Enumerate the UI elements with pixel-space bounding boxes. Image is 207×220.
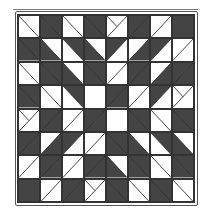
quilt-cell-r7-c4 — [106, 179, 128, 202]
quilt-cell-r6-c7 — [172, 155, 194, 178]
quilt-cell-r3-c3 — [84, 85, 106, 108]
quilt-grid — [17, 14, 195, 203]
quilt-cell-r1-c2 — [62, 38, 84, 61]
quilt-cell-r4-c1 — [40, 109, 62, 132]
quilt-cell-r7-c5 — [128, 179, 150, 202]
quilt-cell-r7-c6 — [150, 179, 172, 202]
quilt-cell-r0-c5 — [128, 15, 150, 38]
quilt-cell-r7-c2 — [62, 179, 84, 202]
quilt-cell-r4-c3 — [84, 109, 106, 132]
quilt-cell-r1-c1 — [40, 38, 62, 61]
quilt-cell-r0-c7 — [172, 15, 194, 38]
quilt-cell-r6-c6 — [150, 155, 172, 178]
quilt-cell-r5-c0 — [18, 132, 40, 155]
quilt-cell-r7-c1 — [40, 179, 62, 202]
quilt-cell-r5-c1 — [40, 132, 62, 155]
quilt-cell-r4-c0 — [18, 109, 40, 132]
quilt-cell-r1-c5 — [128, 38, 150, 61]
quilt-cell-r5-c5 — [128, 132, 150, 155]
quilt-cell-r5-c7 — [172, 132, 194, 155]
quilt-cell-r0-c2 — [62, 15, 84, 38]
quilt-cell-r2-c1 — [40, 62, 62, 85]
quilt-cell-r3-c1 — [40, 85, 62, 108]
quilt-cell-r4-c6 — [150, 109, 172, 132]
quilt-cell-r4-c2 — [62, 109, 84, 132]
quilt-cell-r7-c3 — [84, 179, 106, 202]
quilt-cell-r2-c5 — [128, 62, 150, 85]
quilt-cell-r1-c3 — [84, 38, 106, 61]
quilt-cell-r5-c4 — [106, 132, 128, 155]
quilt-cell-r0-c3 — [84, 15, 106, 38]
quilt-cell-r7-c7 — [172, 179, 194, 202]
quilt-cell-r3-c0 — [18, 85, 40, 108]
quilt-cell-r6-c3 — [84, 155, 106, 178]
quilt-cell-r3-c5 — [128, 85, 150, 108]
quilt-cell-r3-c2 — [62, 85, 84, 108]
quilt-cell-r2-c3 — [84, 62, 106, 85]
quilt-cell-r5-c3 — [84, 132, 106, 155]
quilt-cell-r6-c4 — [106, 155, 128, 178]
quilt-cell-r1-c7 — [172, 38, 194, 61]
quilt-cell-r2-c6 — [150, 62, 172, 85]
quilt-cell-r5-c6 — [150, 132, 172, 155]
quilt-cell-r4-c7 — [172, 109, 194, 132]
quilt-cell-r4-c5 — [128, 109, 150, 132]
quilt-cell-r6-c2 — [62, 155, 84, 178]
quilt-cell-r3-c4 — [106, 85, 128, 108]
quilt-cell-r4-c4 — [106, 109, 128, 132]
quilt-cell-r3-c6 — [150, 85, 172, 108]
quilt-cell-r2-c7 — [172, 62, 194, 85]
quilt-cell-r1-c4 — [106, 38, 128, 61]
quilt-cell-r1-c0 — [18, 38, 40, 61]
quilt-cell-r7-c0 — [18, 179, 40, 202]
quilt-cell-r2-c4 — [106, 62, 128, 85]
quilt-cell-r6-c0 — [18, 155, 40, 178]
quilt-cell-r2-c0 — [18, 62, 40, 85]
quilt-cell-r0-c0 — [18, 15, 40, 38]
quilt-cell-r6-c5 — [128, 155, 150, 178]
quilt-cell-r2-c2 — [62, 62, 84, 85]
quilt-cell-r6-c1 — [40, 155, 62, 178]
quilt-cell-r0-c6 — [150, 15, 172, 38]
quilt-cell-r0-c1 — [40, 15, 62, 38]
quilt-cell-r5-c2 — [62, 132, 84, 155]
quilt-cell-r1-c6 — [150, 38, 172, 61]
quilt-cell-r0-c4 — [106, 15, 128, 38]
quilt-cell-r3-c7 — [172, 85, 194, 108]
